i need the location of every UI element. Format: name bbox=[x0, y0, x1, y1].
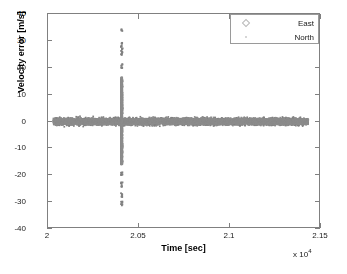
scatter-data-layer bbox=[48, 14, 320, 228]
x-tick-label: 2.1 bbox=[223, 231, 234, 240]
y-tick-mark bbox=[315, 67, 320, 68]
y-tick-mark bbox=[315, 147, 320, 148]
y-tick-mark bbox=[315, 174, 320, 175]
x-tick-mark bbox=[138, 223, 139, 228]
legend-box: East North bbox=[230, 14, 319, 44]
x-tick-mark bbox=[229, 223, 230, 228]
dot-marker-icon bbox=[231, 36, 261, 38]
y-tick-mark bbox=[47, 174, 52, 175]
legend-item-east: East bbox=[231, 16, 320, 30]
x-tick-mark bbox=[47, 14, 48, 19]
y-tick-mark bbox=[47, 201, 52, 202]
y-tick-label: -10 bbox=[0, 143, 26, 152]
x-tick-label: 2.15 bbox=[312, 231, 328, 240]
x-tick-label: 2.05 bbox=[130, 231, 146, 240]
figure-canvas: 403020100-10-20-30-4022.052.12.15 Time [… bbox=[0, 0, 347, 274]
y-tick-mark bbox=[47, 147, 52, 148]
y-tick-mark bbox=[47, 40, 52, 41]
y-tick-mark bbox=[47, 67, 52, 68]
y-tick-label: -20 bbox=[0, 170, 26, 179]
diamond-marker-icon bbox=[231, 20, 261, 26]
legend-label-north: North bbox=[261, 33, 320, 42]
y-tick-mark bbox=[47, 228, 52, 229]
y-axis-label: Velocity error [m/s] bbox=[16, 0, 26, 127]
x-tick-mark bbox=[47, 223, 48, 228]
y-tick-mark bbox=[47, 94, 52, 95]
x-axis-exponent: x 104 bbox=[293, 248, 311, 259]
legend-item-north: North bbox=[231, 30, 320, 44]
y-tick-mark bbox=[315, 94, 320, 95]
plot-area bbox=[47, 13, 320, 228]
y-tick-mark bbox=[315, 121, 320, 122]
x-tick-mark bbox=[320, 223, 321, 228]
x-axis-label: Time [sec] bbox=[47, 243, 320, 253]
y-tick-label: -30 bbox=[0, 197, 26, 206]
x-tick-mark bbox=[138, 14, 139, 19]
x-axis-exponent-power: 4 bbox=[308, 248, 311, 254]
x-tick-label: 2 bbox=[45, 231, 49, 240]
y-tick-mark bbox=[47, 121, 52, 122]
y-tick-mark bbox=[315, 228, 320, 229]
y-tick-mark bbox=[315, 201, 320, 202]
x-tick-mark bbox=[320, 14, 321, 19]
legend-label-east: East bbox=[261, 19, 320, 28]
y-tick-label: -40 bbox=[0, 224, 26, 233]
x-axis-exponent-prefix: x 10 bbox=[293, 250, 308, 259]
